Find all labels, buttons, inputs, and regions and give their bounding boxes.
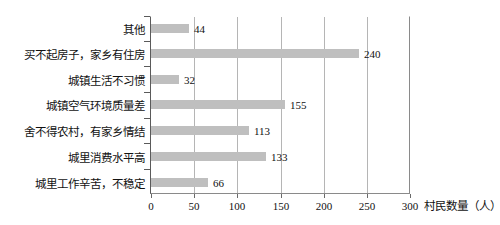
- y-axis-category-label: 城里工作辛苦，不稳定: [0, 178, 145, 190]
- x-axis-title: 村民数量（人）: [424, 200, 500, 212]
- bar-value-label: 113: [254, 126, 270, 137]
- bar-value-label: 133: [271, 152, 288, 163]
- bar-城里消费水平高: [151, 152, 266, 161]
- bar-其他: [151, 24, 189, 33]
- bar-value-label: 44: [194, 24, 205, 35]
- y-axis-tick: [144, 169, 150, 170]
- x-axis-tick-label: 0: [136, 200, 166, 212]
- horizontal-bar-chart: 其他 买不起房子，家乡有住房 城镇生活不习惯 城镇空气环境质量差 舍不得农村，有…: [0, 0, 500, 225]
- bar-value-label: 66: [213, 178, 224, 189]
- gridline-250: [367, 17, 368, 193]
- bar-城里工作辛苦不稳定: [151, 178, 208, 187]
- gridline-200: [324, 17, 325, 193]
- x-axis-tick: [324, 194, 325, 198]
- bar-城镇生活不习惯: [151, 75, 179, 84]
- y-axis-tick: [144, 66, 150, 67]
- x-axis-tick-label: 250: [352, 200, 382, 212]
- y-axis-tick: [144, 92, 150, 93]
- bar-买不起房子家乡有住房: [151, 49, 359, 58]
- bar-舍不得农村有家乡情结: [151, 126, 249, 135]
- bar-value-label: 155: [290, 100, 307, 111]
- x-axis-tick: [237, 194, 238, 198]
- x-axis-tick: [410, 194, 411, 198]
- y-axis-category-label: 舍不得农村，有家乡情结: [0, 126, 145, 138]
- x-axis-tick: [281, 194, 282, 198]
- y-axis-tick: [144, 16, 150, 17]
- bar-value-label: 240: [364, 49, 381, 60]
- y-axis-category-label: 城里消费水平高: [0, 152, 145, 164]
- x-axis-tick: [151, 194, 152, 198]
- x-axis-tick: [367, 194, 368, 198]
- x-axis-tick-label: 150: [266, 200, 296, 212]
- x-axis-tick-label: 50: [179, 200, 209, 212]
- bar-value-label: 32: [184, 75, 195, 86]
- y-axis-category-label: 城镇生活不习惯: [0, 75, 145, 87]
- y-axis-category-label: 城镇空气环境质量差: [0, 100, 145, 112]
- x-axis-tick-label: 100: [222, 200, 252, 212]
- y-axis-tick: [144, 41, 150, 42]
- y-axis-tick: [144, 118, 150, 119]
- y-axis-category-label: 买不起房子，家乡有住房: [0, 49, 145, 61]
- x-axis-tick-label: 300: [395, 200, 425, 212]
- bar-城镇空气环境质量差: [151, 100, 285, 109]
- x-axis-tick-label: 200: [309, 200, 339, 212]
- x-axis-tick: [194, 194, 195, 198]
- y-axis-category-label: 其他: [0, 24, 145, 36]
- y-axis-tick: [144, 143, 150, 144]
